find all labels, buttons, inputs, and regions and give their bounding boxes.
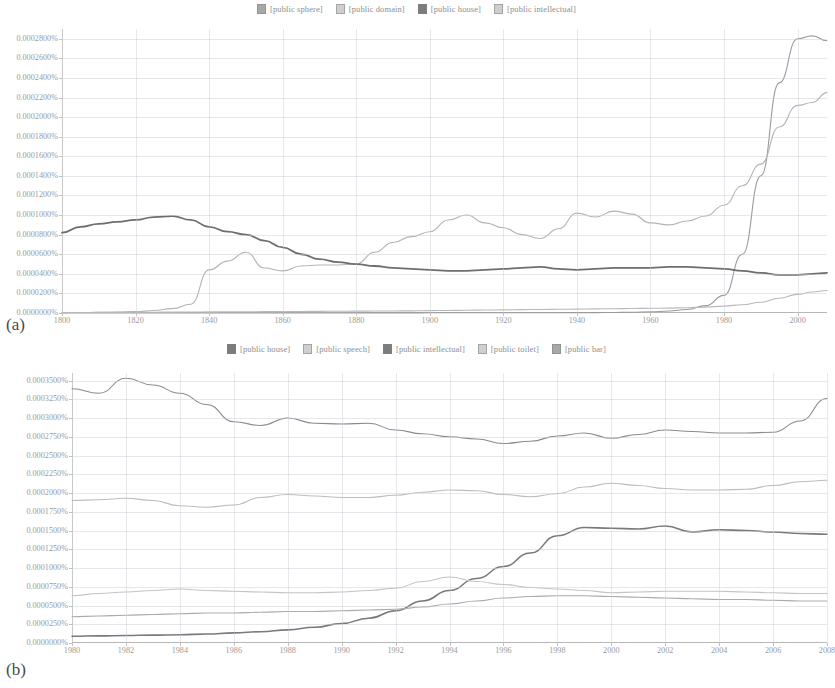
gridline-vertical bbox=[798, 29, 799, 313]
x-axis-tick-mark bbox=[356, 313, 357, 316]
legend-item-label: [public house] bbox=[431, 4, 481, 14]
x-axis-tick-label: 1800 bbox=[54, 316, 70, 325]
x-axis-tick-mark bbox=[342, 643, 343, 646]
gridline-horizontal bbox=[62, 235, 827, 236]
x-axis-tick-label: 1990 bbox=[333, 646, 349, 655]
legend-item[interactable]: [public bar] bbox=[552, 344, 606, 354]
y-axis-tick-mark bbox=[69, 493, 72, 494]
legend-item[interactable]: [public house] bbox=[418, 4, 481, 14]
legend-item-label: [public intellectual] bbox=[507, 4, 576, 14]
legend-item[interactable]: [public speech] bbox=[303, 344, 370, 354]
legend-item[interactable]: [public toilet] bbox=[478, 344, 539, 354]
y-axis-tick-label: 0.0002000% bbox=[26, 489, 68, 497]
y-axis-tick-mark bbox=[59, 78, 62, 79]
y-axis-tick-label: 0.0000000% bbox=[26, 639, 68, 647]
gridline-vertical bbox=[577, 29, 578, 313]
y-axis-tick-mark bbox=[69, 381, 72, 382]
legend-swatch-icon bbox=[227, 344, 236, 354]
y-axis-tick-label: 0.0002400% bbox=[16, 74, 58, 82]
gridline-vertical bbox=[503, 29, 504, 313]
legend-item[interactable]: [public intellectual] bbox=[383, 344, 465, 354]
gridline-vertical bbox=[180, 373, 181, 643]
y-axis-tick-mark bbox=[69, 456, 72, 457]
gridline-vertical bbox=[209, 29, 210, 313]
x-axis-tick-label: 1988 bbox=[280, 646, 296, 655]
x-axis-tick-label: 2006 bbox=[765, 646, 781, 655]
chart-panel-a: [public sphere][public domain][public ho… bbox=[0, 0, 833, 340]
y-axis-tick-mark bbox=[69, 512, 72, 513]
legend-item[interactable]: [public sphere] bbox=[257, 4, 323, 14]
legend-item-label: [public sphere] bbox=[270, 4, 323, 14]
y-axis-tick-label: 0.0002750% bbox=[26, 433, 68, 441]
legend-item[interactable]: [public house] bbox=[227, 344, 290, 354]
x-axis-tick-mark bbox=[450, 643, 451, 646]
x-axis-tick-label: 1994 bbox=[441, 646, 457, 655]
y-axis-tick-label: 0.0002000% bbox=[16, 113, 58, 121]
x-axis-tick-label: 1920 bbox=[495, 316, 511, 325]
y-axis-tick-mark bbox=[59, 39, 62, 40]
gridline-horizontal bbox=[62, 215, 827, 216]
y-axis-tick-label: 0.0003250% bbox=[26, 395, 68, 403]
y-axis-tick-label: 0.0000200% bbox=[16, 289, 58, 297]
x-axis-tick-mark bbox=[503, 313, 504, 316]
legend-item-label: [public house] bbox=[240, 344, 290, 354]
y-axis-tick-mark bbox=[59, 137, 62, 138]
gridline-horizontal bbox=[62, 98, 827, 99]
chart-panel-b: [public house][public speech][public int… bbox=[0, 340, 833, 688]
gridline-vertical bbox=[450, 373, 451, 643]
y-axis-tick-label: 0.0001000% bbox=[26, 564, 68, 572]
gridline-horizontal bbox=[62, 78, 827, 79]
gridline-vertical bbox=[234, 373, 235, 643]
x-axis-tick-mark bbox=[136, 313, 137, 316]
legend-item-label: [public toilet] bbox=[491, 344, 539, 354]
x-axis-tick-mark bbox=[126, 643, 127, 646]
y-axis-tick-label: 0.0000800% bbox=[16, 231, 58, 239]
x-axis-tick-label: 1980 bbox=[716, 316, 732, 325]
series-layer-a bbox=[62, 29, 827, 313]
gridline-vertical bbox=[283, 29, 284, 313]
legend-item-label: [public intellectual] bbox=[396, 344, 465, 354]
y-axis-tick-label: 0.0000250% bbox=[26, 620, 68, 628]
y-axis-tick-mark bbox=[69, 549, 72, 550]
y-axis-tick-mark bbox=[59, 274, 62, 275]
gridline-vertical bbox=[396, 373, 397, 643]
legend-item[interactable]: [public intellectual] bbox=[494, 4, 576, 14]
gridline-vertical bbox=[342, 373, 343, 643]
x-axis-tick-label: 1992 bbox=[387, 646, 403, 655]
x-axis-tick-mark bbox=[650, 313, 651, 316]
y-axis-tick-mark bbox=[69, 624, 72, 625]
x-axis-tick-label: 2008 bbox=[819, 646, 835, 655]
panel-caption-b: (b) bbox=[6, 660, 26, 680]
gridline-horizontal bbox=[62, 274, 827, 275]
x-axis-tick-label: 1998 bbox=[549, 646, 565, 655]
y-axis-tick-mark bbox=[69, 568, 72, 569]
y-axis-tick-mark bbox=[59, 156, 62, 157]
x-axis-tick-label: 2000 bbox=[789, 316, 805, 325]
gridline-vertical bbox=[356, 29, 357, 313]
x-axis-tick-label: 1980 bbox=[64, 646, 80, 655]
x-axis-tick-mark bbox=[719, 643, 720, 646]
legend-swatch-icon bbox=[303, 344, 312, 354]
legend-swatch-icon bbox=[418, 4, 427, 14]
y-axis-tick-mark bbox=[69, 587, 72, 588]
gridline-horizontal bbox=[62, 137, 827, 138]
series-line bbox=[62, 93, 827, 313]
y-axis-tick-mark bbox=[59, 254, 62, 255]
y-axis-tick-label: 0.0002250% bbox=[26, 470, 68, 478]
series-line bbox=[62, 216, 827, 275]
legend-swatch-icon bbox=[257, 4, 266, 14]
y-axis-tick-label: 0.0000750% bbox=[26, 583, 68, 591]
x-axis-tick-mark bbox=[827, 643, 828, 646]
legend-item-label: [public speech] bbox=[316, 344, 370, 354]
y-axis-tick-label: 0.0001000% bbox=[16, 211, 58, 219]
x-axis-tick-label: 2002 bbox=[657, 646, 673, 655]
x-axis-tick-label: 1840 bbox=[201, 316, 217, 325]
gridline-vertical bbox=[136, 29, 137, 313]
x-axis-tick-label: 1984 bbox=[172, 646, 188, 655]
y-axis-tick-label: 0.0001750% bbox=[26, 508, 68, 516]
legend-swatch-icon bbox=[494, 4, 503, 14]
legend-item[interactable]: [public domain] bbox=[336, 4, 405, 14]
x-axis-tick-mark bbox=[665, 643, 666, 646]
y-axis-tick-mark bbox=[69, 606, 72, 607]
y-axis-tick-mark bbox=[69, 437, 72, 438]
